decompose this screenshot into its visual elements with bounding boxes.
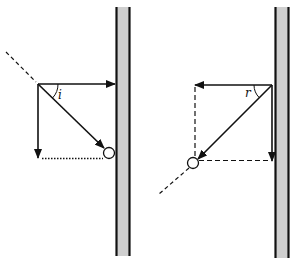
ball-icon [188,158,199,169]
angle-label-i: i [58,88,62,102]
incidence-panel: i [6,7,130,256]
reflected-velocity-arrow [198,85,272,159]
angle-arc-r [254,85,259,98]
collision-diagram: i r [0,0,295,262]
right-wall [275,7,289,258]
angle-label-r: r [245,86,252,100]
velocity-arrow [38,84,104,148]
incoming-path-dashed [6,52,36,82]
left-wall [116,7,130,256]
ball-icon [104,148,115,159]
outgoing-path-dashed [159,168,189,194]
reflection-panel: r [159,7,289,258]
